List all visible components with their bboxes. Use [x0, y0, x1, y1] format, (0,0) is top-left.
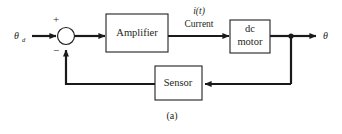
block-dc-motor-label-line2: motor	[237, 36, 263, 47]
input-signal-subscript: d	[22, 36, 26, 43]
summing-junction	[58, 28, 75, 45]
summing-junction-plus-sign: +	[53, 13, 59, 25]
block-diagram-figure: + − Amplifier dc motor Sensor θ d i(t) C…	[0, 0, 342, 134]
current-signal-symbol: i(t)	[193, 6, 205, 17]
block-amplifier-label: Amplifier	[116, 27, 158, 38]
current-signal-name: Current	[184, 19, 213, 29]
figure-caption: (a)	[166, 110, 177, 122]
output-signal-symbol: θ	[323, 30, 328, 41]
block-sensor-label: Sensor	[164, 77, 193, 88]
control-system-block-diagram: + − Amplifier dc motor Sensor θ d i(t) C…	[0, 0, 342, 134]
block-dc-motor-label-line1: dc	[245, 23, 255, 34]
summing-junction-minus-sign: −	[53, 44, 59, 56]
input-signal-symbol: θ	[14, 30, 19, 41]
